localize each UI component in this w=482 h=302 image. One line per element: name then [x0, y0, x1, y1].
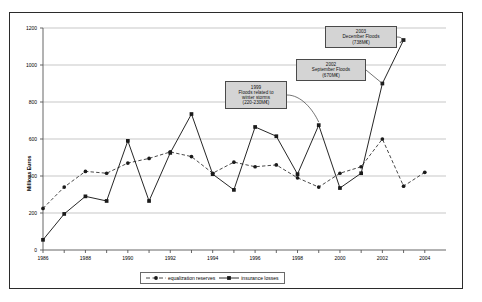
x-tick-label-1994: 1994: [200, 255, 226, 261]
chart-legend: equalization reserves insurance losses: [140, 272, 285, 284]
y-tick-label-1000: 1000: [15, 62, 37, 68]
y-tick-label-800: 800: [15, 99, 37, 105]
legend-label-equalization-reserves: equalization reserves: [168, 275, 215, 281]
annotation-1999: 1999Floods related towinter storms(220-2…: [225, 81, 287, 109]
y-tick-label-400: 400: [15, 173, 37, 179]
x-tick-label-2000: 2000: [327, 255, 353, 261]
legend-item-insurance-losses: insurance losses: [219, 275, 278, 281]
legend-item-equalization-reserves: equalization reserves: [146, 275, 215, 281]
annotation-1999-line-3: (220-230M€): [229, 100, 283, 105]
x-tick-label-1986: 1986: [30, 255, 56, 261]
x-tick-label-1996: 1996: [242, 255, 268, 261]
legend-swatch-solid-square: [219, 275, 239, 281]
y-tick-label-600: 600: [15, 136, 37, 142]
x-tick-label-1988: 1988: [72, 255, 98, 261]
y-tick-label-200: 200: [15, 210, 37, 216]
legend-label-insurance-losses: insurance losses: [241, 275, 278, 281]
y-tick-label-0: 0: [15, 247, 37, 253]
x-tick-label-1992: 1992: [157, 255, 183, 261]
legend-swatch-dashed-circle: [146, 275, 166, 281]
x-tick-label-1990: 1990: [115, 255, 141, 261]
x-tick-label-2004: 2004: [412, 255, 438, 261]
x-tick-label-1998: 1998: [285, 255, 311, 261]
x-tick-label-2002: 2002: [369, 255, 395, 261]
annotation-2002-line-2: (670M€): [300, 73, 362, 78]
y-tick-label-1200: 1200: [15, 25, 37, 31]
annotation-2003-line-2: (738M€): [329, 40, 393, 45]
annotation-2002: 2002September Floods(670M€): [296, 59, 366, 81]
annotation-2003: 2003December Floods(738M€): [325, 26, 397, 48]
